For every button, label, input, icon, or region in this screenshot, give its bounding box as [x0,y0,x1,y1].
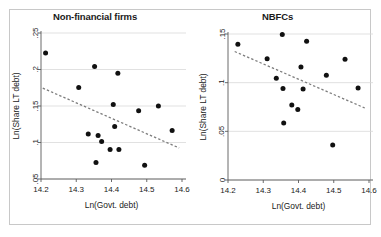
scatter-point [76,85,81,90]
y-tick-label: .15 [218,28,227,40]
scatter-point [111,102,116,107]
y-tick-label: .05 [31,173,40,185]
x-axis-title: Ln(Govt. debt) [272,201,326,211]
scatter-point [301,86,306,91]
scatter-point [281,121,286,126]
scatter-point [280,32,285,37]
scatter-point [112,124,117,129]
x-tick-label: 14.3 [68,185,84,194]
x-axis-title: Ln(Govt. debt) [85,200,139,210]
scatter-point [43,51,48,56]
x-tick-label: 14.3 [255,186,271,195]
y-tick-label: .1 [31,139,40,146]
scatter-point [265,56,270,61]
y-axis-title: Ln(Share LT debt) [11,72,21,139]
x-tick-label: 14.5 [139,185,155,194]
scatter-point [142,163,147,168]
figure-root: Non-financial firms .05.1.15.2.2514.214.… [0,0,381,237]
trend-line [43,88,179,148]
scatter-point [304,39,309,44]
scatter-point [289,103,294,108]
x-tick-label: 14.5 [326,186,342,195]
x-tick-label: 14.4 [104,185,120,194]
scatter-point [93,160,98,165]
panel-nbfcs: NBFCs 0.05.1.1514.214.314.414.514.6Ln(Go… [190,0,381,237]
x-tick-label: 14.2 [220,186,236,195]
scatter-point [116,147,121,152]
y-axis-title: Ln(Share LT debt) [198,73,208,140]
scatter-point [86,132,91,137]
x-tick-label: 14.4 [291,186,307,195]
scatter-plot-left: .05.1.15.2.2514.214.314.414.514.6Ln(Govt… [0,0,190,237]
scatter-point [274,76,279,81]
scatter-point [356,86,361,91]
scatter-point [324,73,329,78]
y-tick-label: .15 [31,100,40,112]
scatter-point [99,139,104,144]
scatter-point [115,71,120,76]
scatter-point [343,57,348,62]
scatter-point [280,86,285,91]
y-tick-label: .2 [31,66,40,73]
scatter-point [108,147,113,152]
scatter-point [96,133,101,138]
y-tick-label: .05 [218,125,227,137]
panel-non-financial-firms: Non-financial firms .05.1.15.2.2514.214.… [0,0,190,237]
scatter-point [330,142,335,147]
scatter-point [136,108,141,113]
scatter-point [295,107,300,112]
scatter-point [235,42,240,47]
y-tick-label: .25 [31,27,40,39]
scatter-point [92,64,97,69]
x-tick-label: 14.6 [174,185,190,194]
scatter-point [156,104,161,109]
scatter-point [298,65,303,70]
y-tick-label: 0 [218,177,227,182]
scatter-point [170,128,175,133]
y-tick-label: .1 [218,79,227,86]
x-tick-label: 14.2 [33,185,49,194]
x-tick-label: 14.6 [361,186,377,195]
scatter-plot-right: 0.05.1.1514.214.314.414.514.6Ln(Govt. de… [190,0,381,237]
